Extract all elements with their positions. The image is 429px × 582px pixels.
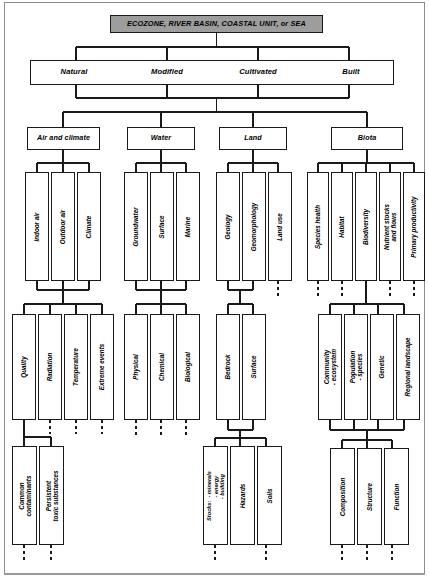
level4-community-ecosystem-label: Community - ecosystem (323, 349, 338, 385)
level3-land-use-label: Land use (276, 213, 283, 241)
level4-chemical[interactable]: Chemical (150, 314, 174, 420)
bottom-rule (4, 573, 425, 575)
level3-marine-label: Marine (184, 216, 191, 236)
level3-indoor-air[interactable]: Indoor air (25, 172, 49, 281)
level4-regional-landscape-label: Regional landscape (404, 337, 411, 396)
level4-extreme-events-label: Extreme events (98, 344, 105, 391)
level4-population-species-label: Population - species (349, 351, 364, 384)
level3-land-use[interactable]: Land use (268, 172, 292, 281)
level5-structure[interactable]: Structure (357, 448, 382, 545)
level5-soils[interactable]: Soils (257, 446, 282, 545)
level5-common-contaminants[interactable]: Common contaminants (12, 446, 37, 545)
level4-physical-label: Physical (132, 354, 139, 380)
category-water-label: Water (151, 134, 171, 142)
level3-climate-label: Climate (85, 215, 92, 238)
category-biota[interactable]: Biota (331, 127, 403, 150)
tier-modified[interactable]: Modified (128, 61, 206, 84)
level5-structure-label: Structure (366, 483, 373, 511)
level4-bedrock-label: Bedrock (224, 354, 231, 379)
level5-persistent-toxic-substances[interactable]: Persistent toxic substances (39, 446, 64, 545)
level3-nutrient-stocks-and-flows-label: Nutrient stocks and flows (383, 204, 398, 250)
level3-geology[interactable]: Geology (216, 172, 240, 281)
level3-groundwater[interactable]: Groundwater (124, 172, 148, 281)
level4-bedrock[interactable]: Bedrock (216, 314, 240, 420)
diagram-title: ECOZONE, RIVER BASIN, COASTAL UNIT, or S… (127, 20, 306, 28)
level5-composition-label: Composition (339, 477, 346, 515)
level5-hazards[interactable]: Hazards (230, 446, 255, 545)
level3-surface-water-label: Surface (158, 215, 165, 238)
level3-species-health-label: Species health (314, 204, 321, 248)
category-air-and-climate-label: Air and climate (37, 134, 90, 142)
level3-primary-productivity[interactable]: Primary productivity (403, 172, 425, 281)
tier-built[interactable]: Built (311, 61, 391, 84)
level5-stocks[interactable]: Stocks: - minerals - energy - building (203, 446, 228, 545)
tier-cultivated[interactable]: Cultivated (219, 61, 297, 84)
category-land[interactable]: Land (219, 127, 287, 150)
level4-genetic[interactable]: Genetic (370, 314, 394, 420)
level3-biodiversity[interactable]: Biodiversity (355, 172, 377, 281)
level4-radiation-label: Radiation (46, 353, 53, 382)
level5-persistent-toxic-substances-label: Persistent toxic substances (44, 470, 59, 521)
level4-surface-label: Surface (250, 355, 257, 378)
level3-habitat-label: Habitat (338, 216, 345, 237)
level3-primary-productivity-label: Primary productivity (410, 196, 417, 257)
level3-geomorphology-label: Geomorphology (250, 202, 257, 251)
level3-outdoor-air[interactable]: Outdoor air (51, 172, 75, 281)
level3-climate[interactable]: Climate (77, 172, 101, 281)
level5-function[interactable]: Function (384, 448, 409, 545)
level5-hazards-label: Hazards (239, 483, 246, 508)
level3-nutrient-stocks-and-flows[interactable]: Nutrient stocks and flows (379, 172, 401, 281)
level4-radiation[interactable]: Radiation (38, 314, 62, 420)
level5-composition[interactable]: Composition (330, 448, 355, 545)
level4-temperature-label: Temperature (72, 348, 79, 386)
category-water[interactable]: Water (127, 127, 195, 150)
tier-built-label: Built (342, 68, 359, 77)
level3-species-health[interactable]: Species health (307, 172, 329, 281)
level4-physical[interactable]: Physical (124, 314, 148, 420)
tier-natural-label: Natural (61, 68, 88, 77)
level3-geomorphology[interactable]: Geomorphology (242, 172, 266, 281)
level3-geology-label: Geology (224, 214, 231, 239)
category-land-label: Land (244, 134, 262, 142)
level3-marine[interactable]: Marine (176, 172, 200, 281)
level3-indoor-air-label: Indoor air (33, 212, 40, 241)
level5-common-contaminants-label: Common contaminants (17, 475, 32, 516)
level4-biological-label: Biological (184, 352, 191, 382)
diagram-canvas: ECOZONE, RIVER BASIN, COASTAL UNIT, or S… (0, 0, 429, 582)
tier-modified-label: Modified (151, 68, 183, 77)
level4-biological[interactable]: Biological (176, 314, 200, 420)
level4-quality[interactable]: Quality (12, 314, 36, 420)
level5-soils-label: Soils (266, 488, 273, 503)
level4-temperature[interactable]: Temperature (64, 314, 88, 420)
diagram-title-box: ECOZONE, RIVER BASIN, COASTAL UNIT, or S… (110, 15, 323, 33)
category-air-and-climate[interactable]: Air and climate (27, 127, 100, 150)
level4-regional-landscape[interactable]: Regional landscape (396, 314, 420, 420)
level4-quality-label: Quality (20, 356, 27, 377)
tier-natural[interactable]: Natural (34, 61, 114, 84)
level3-groundwater-label: Groundwater (132, 207, 139, 246)
level4-population-species[interactable]: Population - species (344, 314, 368, 420)
level3-surface-water[interactable]: Surface (150, 172, 174, 281)
level5-stocks-label: Stocks: - minerals - energy - building (206, 471, 226, 521)
level3-outdoor-air-label: Outdoor air (59, 209, 66, 243)
level5-function-label: Function (393, 483, 400, 510)
level3-biodiversity-label: Biodiversity (362, 208, 369, 244)
level4-chemical-label: Chemical (158, 353, 165, 381)
level4-surface[interactable]: Surface (242, 314, 266, 420)
level4-genetic-label: Genetic (378, 355, 385, 378)
level4-community-ecosystem[interactable]: Community - ecosystem (318, 314, 342, 420)
level4-extreme-events[interactable]: Extreme events (90, 314, 114, 420)
tier-cultivated-label: Cultivated (239, 68, 277, 77)
level3-habitat[interactable]: Habitat (331, 172, 353, 281)
category-biota-label: Biota (358, 134, 376, 142)
